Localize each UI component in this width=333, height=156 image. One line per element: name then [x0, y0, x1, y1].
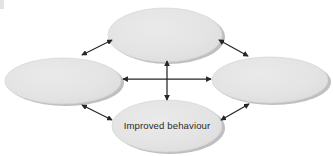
node-left[interactable]	[5, 58, 121, 104]
node-top-ellipse[interactable]	[108, 8, 222, 62]
node-bottom-label: Improved behaviour	[124, 120, 211, 131]
connector-top-right-diagonal	[219, 40, 248, 56]
node-bottom[interactable]: Improved behaviour	[112, 100, 222, 152]
diagram-canvas: Improved behaviour	[0, 0, 333, 156]
node-left-ellipse[interactable]	[5, 58, 121, 104]
node-right[interactable]	[212, 57, 328, 103]
node-right-ellipse[interactable]	[212, 57, 328, 103]
connector-top-left-diagonal	[82, 40, 112, 55]
connector-bottom-right-diagonal	[221, 104, 249, 120]
diagram-svg: Improved behaviour	[0, 0, 333, 156]
connector-bottom-left-diagonal	[82, 105, 112, 120]
node-top[interactable]	[108, 8, 222, 62]
